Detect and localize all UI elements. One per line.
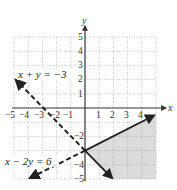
y-tick-label: −5 [74, 174, 84, 184]
inequality-graph: x y −5 −4 −3 −2 −1 1 2 3 4 5 4 3 2 1 −2 … [0, 0, 177, 190]
x-tick-labels: −5 −4 −3 −2 −1 1 2 3 4 [5, 110, 143, 120]
x-tick-label: 3 [124, 110, 129, 120]
y-tick-label: 4 [78, 46, 83, 56]
x-tick-label: −5 [5, 110, 15, 120]
y-tick-label: −2 [74, 131, 84, 141]
y-tick-label: 1 [78, 89, 83, 99]
shaded-solution-region [85, 115, 156, 179]
equation-label-x-minus-2y: x − 2y = 6 [4, 155, 52, 167]
x-tick-label: −1 [63, 110, 73, 120]
y-tick-label: 3 [78, 60, 83, 70]
x-tick-label: 4 [138, 110, 143, 120]
equation-label-x-plus-y: x + y = −3 [17, 68, 67, 80]
x-axis-label: x [167, 102, 173, 113]
y-tick-label: 2 [78, 74, 83, 84]
x-tick-label: −4 [19, 110, 29, 120]
y-axis-label: y [81, 15, 87, 26]
x-tick-label: 1 [96, 110, 101, 120]
y-tick-label: −4 [74, 160, 84, 170]
x-tick-label: 2 [110, 110, 115, 120]
x-tick-label: −3 [34, 110, 44, 120]
y-tick-label: 5 [78, 32, 83, 42]
